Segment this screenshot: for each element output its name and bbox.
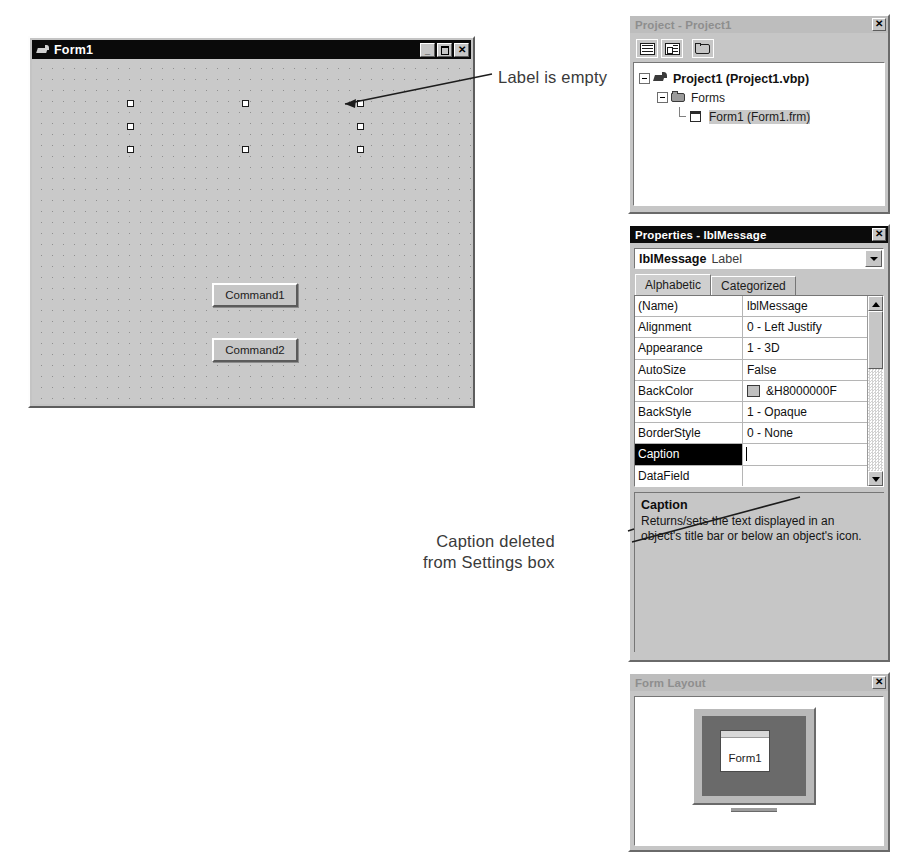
form-canvas[interactable]: Command1 Command2 [32,59,471,404]
property-value[interactable] [743,466,867,486]
properties-tabs[interactable]: Alphabetic Categorized [635,274,883,295]
form-layout-area[interactable]: Form1 [634,696,884,846]
form-layout-titlebar[interactable]: Form Layout ✕ [630,674,888,691]
form-layout-window[interactable]: Form Layout ✕ Form1 [628,672,890,852]
tree-item-forms[interactable]: Forms [634,88,884,107]
selection-handle-middle-left[interactable] [127,123,134,130]
project-icon [653,72,669,85]
selection-handle-bottom-right[interactable] [357,146,364,153]
object-type: Label [711,252,742,266]
property-name: Appearance [635,338,743,358]
monitor-stand [731,807,777,812]
form-window-buttons: _ ✕ [420,43,471,57]
tree-item-label: Project1 (Project1.vbp) [673,72,809,86]
command1-button[interactable]: Command1 [212,283,298,307]
table-row[interactable]: Alignment 0 - Left Justify [635,317,867,338]
scroll-up-icon[interactable] [868,296,883,311]
properties-title: Properties - lblMessage [635,229,766,241]
color-swatch [747,385,760,397]
maximize-icon[interactable] [437,43,452,57]
table-row[interactable]: Appearance 1 - 3D [635,338,867,359]
toggle-folders-icon[interactable] [692,39,714,58]
property-value[interactable]: False [743,360,867,380]
properties-scrollbar[interactable] [867,296,883,486]
form-designer-window[interactable]: Form1 _ ✕ Command1 Command2 [28,36,475,408]
form-position-thumbnail[interactable]: Form1 [720,730,770,772]
description-text: Returns/sets the text displayed in an ob… [641,514,878,544]
chevron-down-icon[interactable] [865,250,882,267]
annotation-line-1: Caption deleted [423,531,555,552]
project-explorer-toolbar[interactable] [633,37,885,60]
text-caret [746,447,747,461]
property-value[interactable]: 0 - None [743,423,867,443]
properties-titlebar[interactable]: Properties - lblMessage ✕ [630,226,888,243]
tree-item-label: Form1 (Form1.frm) [709,110,810,124]
property-name: DataField [635,466,743,486]
project-tree[interactable]: Project1 (Project1.vbp) Forms Form1 (For… [633,62,885,206]
table-row[interactable]: BackColor &H8000000F [635,381,867,402]
monitor-screen[interactable]: Form1 [702,716,806,796]
scrollbar-track[interactable] [868,369,883,471]
property-name: BackColor [635,381,743,401]
property-name: BackStyle [635,402,743,422]
object-selector-combo[interactable]: lblMessage Label [634,248,884,269]
description-title: Caption [641,498,878,512]
property-value[interactable]: &H8000000F [743,381,867,401]
annotation-caption-deleted: Caption deleted from Settings box [423,531,555,573]
table-row[interactable]: BackStyle 1 - Opaque [635,402,867,423]
table-row[interactable]: AutoSize False [635,360,867,381]
selection-handle-bottom-center[interactable] [242,146,249,153]
form-icon [689,110,705,123]
table-row[interactable]: DataField [635,466,867,487]
table-row-caption[interactable]: Caption [635,444,867,465]
properties-grid[interactable]: (Name) lblMessage Alignment 0 - Left Jus… [634,295,884,487]
close-icon[interactable]: ✕ [872,676,886,689]
selection-handle-top-center[interactable] [242,100,249,107]
property-description-pane: Caption Returns/sets the text displayed … [634,492,884,652]
table-row[interactable]: (Name) lblMessage [635,296,867,317]
project-explorer-window[interactable]: Project - Project1 ✕ Project1 (Project1.… [628,14,890,214]
property-value[interactable]: 1 - Opaque [743,402,867,422]
close-icon[interactable]: ✕ [872,18,886,31]
close-icon[interactable]: ✕ [872,228,886,241]
property-name: AutoSize [635,360,743,380]
project-explorer-titlebar[interactable]: Project - Project1 ✕ [630,16,888,33]
property-value[interactable]: 1 - 3D [743,338,867,358]
property-name: Caption [635,444,743,464]
form-title: Form1 [54,43,93,57]
object-name: lblMessage [639,252,706,266]
caption-value-input[interactable] [743,444,867,464]
scrollbar-thumb[interactable] [868,311,883,369]
selection-handle-middle-right[interactable] [357,123,364,130]
command2-button[interactable]: Command2 [212,338,298,362]
scroll-down-icon[interactable] [868,471,883,486]
project-explorer-title: Project - Project1 [635,19,731,31]
table-row[interactable]: BorderStyle 0 - None [635,423,867,444]
close-icon[interactable]: ✕ [454,43,469,57]
tab-categorized[interactable]: Categorized [711,276,796,295]
annotation-label-empty: Label is empty [498,67,607,88]
property-value-text: &H8000000F [766,384,837,398]
minimize-icon[interactable]: _ [420,43,435,57]
view-object-icon[interactable] [661,39,683,58]
properties-window[interactable]: Properties - lblMessage ✕ lblMessage Lab… [628,224,890,662]
expander-icon[interactable] [639,73,650,84]
view-code-icon[interactable] [636,39,658,58]
monitor-graphic: Form1 [692,707,816,805]
tree-item-form1[interactable]: Form1 (Form1.frm) [634,107,884,126]
tree-elbow-icon [675,111,686,122]
property-name: Alignment [635,317,743,337]
vb-form-icon [36,44,50,56]
mini-form-titlebar [721,731,769,738]
form-titlebar[interactable]: Form1 _ ✕ [32,40,471,59]
selection-handle-top-right[interactable] [357,100,364,107]
selection-handle-bottom-left[interactable] [127,146,134,153]
property-value[interactable]: 0 - Left Justify [743,317,867,337]
tree-item-label: Forms [691,91,725,105]
selection-handle-top-left[interactable] [127,100,134,107]
tree-item-project[interactable]: Project1 (Project1.vbp) [634,69,884,88]
property-value[interactable]: lblMessage [743,296,867,316]
expander-icon[interactable] [657,92,668,103]
tab-alphabetic[interactable]: Alphabetic [635,274,711,295]
property-name: (Name) [635,296,743,316]
